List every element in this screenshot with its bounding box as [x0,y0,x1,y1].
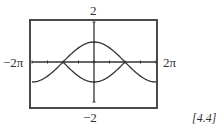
plot-area [0,0,217,128]
x-max-label: 2π [163,56,176,69]
y-max-label: 2 [90,4,97,17]
x-min-label: −2π [3,56,23,69]
y-min-label: −2 [83,111,97,124]
figure-reference: [4.4] [192,112,216,125]
axes [32,22,156,102]
